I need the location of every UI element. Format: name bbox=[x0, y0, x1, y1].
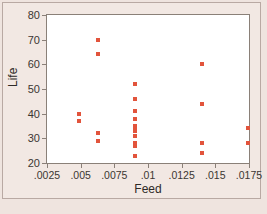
scatter-point bbox=[246, 126, 250, 130]
y-axis-tick bbox=[42, 138, 47, 139]
scatter-point bbox=[96, 52, 100, 56]
scatter-point bbox=[77, 112, 81, 116]
scatter-point bbox=[133, 117, 137, 121]
x-axis-title: Feed bbox=[46, 182, 250, 196]
scatter-point bbox=[96, 38, 100, 42]
y-axis-tick bbox=[42, 64, 47, 65]
y-axis-title: Life bbox=[6, 73, 20, 87]
x-axis-tick bbox=[215, 163, 216, 168]
y-axis-tick bbox=[42, 89, 47, 90]
scatter-point bbox=[200, 141, 204, 145]
y-axis-tick-label: 30 bbox=[28, 132, 40, 144]
x-axis-tick bbox=[182, 163, 183, 168]
x-axis-tick-label: .0075 bbox=[101, 169, 127, 181]
x-axis-tick bbox=[81, 163, 82, 168]
y-axis-tick-label: 70 bbox=[28, 34, 40, 46]
x-axis-tick-label: .0175 bbox=[236, 169, 262, 181]
scatter-point bbox=[133, 97, 137, 101]
scatter-point bbox=[200, 151, 204, 155]
scatter-point bbox=[96, 139, 100, 143]
scatter-point bbox=[133, 109, 137, 113]
x-axis-tick-label: .005 bbox=[70, 169, 90, 181]
chart-panel: 20304050607080 .0025.005.0075.01.0125.01… bbox=[2, 2, 261, 199]
x-axis-tick-label: .0125 bbox=[169, 169, 195, 181]
y-axis-tick bbox=[42, 114, 47, 115]
scatter-point bbox=[77, 119, 81, 123]
y-axis-tick-label: 20 bbox=[28, 157, 40, 169]
figure-canvas: 20304050607080 .0025.005.0075.01.0125.01… bbox=[0, 0, 267, 214]
x-axis-tick bbox=[47, 163, 48, 168]
y-axis-tick-label: 40 bbox=[28, 108, 40, 120]
x-axis-tick bbox=[114, 163, 115, 168]
scatter-point bbox=[133, 134, 137, 138]
scatter-point bbox=[246, 141, 250, 145]
scatter-point bbox=[133, 129, 137, 133]
y-axis-tick bbox=[42, 40, 47, 41]
scatter-point bbox=[200, 102, 204, 106]
scatter-point bbox=[133, 82, 137, 86]
x-axis-tick-label: .015 bbox=[205, 169, 225, 181]
x-axis-tick bbox=[249, 163, 250, 168]
y-axis-tick bbox=[42, 15, 47, 16]
y-axis-tick-label: 60 bbox=[28, 58, 40, 70]
scatter-point bbox=[133, 154, 137, 158]
plot-area: 20304050607080 .0025.005.0075.01.0125.01… bbox=[46, 14, 250, 164]
scatter-point bbox=[133, 144, 137, 148]
x-axis-tick-label: .0025 bbox=[34, 169, 60, 181]
scatter-point bbox=[200, 62, 204, 66]
scatter-point bbox=[96, 131, 100, 135]
y-axis-tick-label: 50 bbox=[28, 83, 40, 95]
x-axis-tick-label: .01 bbox=[141, 169, 156, 181]
x-axis-tick bbox=[148, 163, 149, 168]
y-axis-tick-label: 80 bbox=[28, 9, 40, 21]
